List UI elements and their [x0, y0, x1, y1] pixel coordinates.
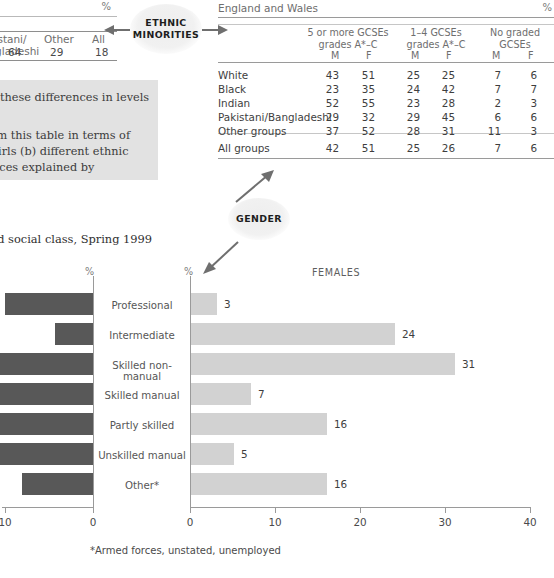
right-table-caption: England and Wales: [218, 2, 318, 14]
column-group-no-graded: No graded GCSEs: [476, 27, 554, 50]
column-group-1-to-4: 1–4 GCSEs grades A*–C: [398, 27, 474, 50]
table-rule-1: [218, 17, 554, 18]
bar-value-6: 16: [334, 478, 347, 490]
ethnic-minorities-node: ETHNIC MINORITIES: [130, 4, 202, 54]
bar-left-6: [22, 473, 93, 495]
arrow-left-icon: [104, 22, 132, 38]
bar-left-1: [55, 323, 93, 345]
left-table-header-other: Other: [44, 33, 74, 45]
left-table-header-pakistani-line2: angladeshi: [0, 45, 44, 57]
subheader-m-0: M: [331, 50, 339, 61]
question-line-2: from this table in terms of: [0, 129, 158, 142]
left-table-percent-symbol: %: [101, 1, 111, 12]
subheader-m-2: M: [492, 50, 500, 61]
table-cell-3-3: 45: [439, 111, 455, 123]
category-label-5: Unskilled manual: [96, 450, 188, 461]
column-group-5-or-more-line1: 5 or more GCSEs: [302, 27, 394, 39]
left-table-value-1: 29: [50, 46, 63, 58]
left-partial-table: % akistani/ angladeshi Other All 64 29 1…: [0, 0, 117, 62]
question-box: for these differences in levels ? from t…: [0, 80, 158, 180]
bar-right-2: [191, 353, 455, 375]
table-cell-3-0: 29: [323, 111, 339, 123]
bar-right-6: [191, 473, 327, 495]
table-rule-3: [218, 62, 554, 63]
bar-right-5: [191, 443, 234, 465]
bar-left-5: [0, 443, 93, 465]
table-row-label-4: Other groups: [218, 125, 286, 137]
category-label-6: Other*: [96, 480, 188, 491]
left-axis-tick-10: [5, 507, 6, 513]
table-cell-1-5: 7: [521, 83, 537, 95]
category-label-1: Intermediate: [96, 330, 188, 341]
bar-value-2: 31: [462, 358, 475, 370]
females-series-header: FEMALES: [312, 267, 360, 278]
bar-left-0: [5, 293, 93, 315]
question-line-3: d girls (b) different ethnic: [0, 145, 158, 158]
bar-right-4: [191, 413, 327, 435]
column-group-1-to-4-line2: grades A*–C: [398, 39, 474, 51]
subheader-m-1: M: [411, 50, 419, 61]
table-row-label-total: All groups: [218, 142, 270, 154]
table-cell-2-2: 23: [404, 97, 420, 109]
left-table-value-0: 64: [8, 46, 21, 58]
right-data-table: England and Wales % 5 or more GCSEs grad…: [218, 0, 554, 165]
table-cell-3-5: 6: [521, 111, 537, 123]
table-cell-total-1: 51: [359, 142, 375, 154]
table-cell-2-1: 55: [359, 97, 375, 109]
right-axis-tick-30: [445, 507, 446, 513]
right-axis-ticklabel-10: 10: [268, 516, 281, 528]
bar-left-2: [0, 353, 93, 375]
left-chart-x-axis: [2, 507, 94, 508]
table-cell-4-0: 37: [323, 125, 339, 137]
table-cell-0-0: 43: [323, 69, 339, 81]
table-rule-bottom: [0, 60, 117, 61]
gender-label: GENDER: [236, 213, 282, 225]
table-cell-total-4: 7: [485, 142, 501, 154]
table-row-label-2: Indian: [218, 97, 250, 109]
table-cell-total-5: 6: [521, 142, 537, 154]
bar-value-5: 5: [241, 448, 248, 460]
right-axis-ticklabel-40: 40: [523, 516, 536, 528]
bar-value-3: 7: [258, 388, 265, 400]
question-line-4: rences explained by: [0, 161, 158, 174]
column-group-no-graded-line1: No graded GCSEs: [476, 27, 554, 50]
right-axis-ticklabel-20: 20: [353, 516, 366, 528]
right-axis-percent-label: %: [184, 266, 193, 277]
question-line-0: for these differences in levels: [0, 91, 158, 104]
table-cell-3-2: 29: [404, 111, 420, 123]
bar-value-0: 3: [224, 298, 231, 310]
table-rule-top: [0, 16, 117, 17]
right-table-percent-symbol: %: [542, 2, 552, 13]
right-axis-tick-0: [190, 507, 191, 513]
column-group-5-or-more: 5 or more GCSEs grades A*–C: [302, 27, 394, 50]
table-row-label-0: White: [218, 69, 248, 81]
ethnic-minorities-label-line2: MINORITIES: [133, 29, 199, 41]
right-axis-tick-10: [275, 507, 276, 513]
chart-footnote: *Armed forces, unstated, unemployed: [90, 545, 281, 556]
table-cell-0-1: 51: [359, 69, 375, 81]
table-cell-2-0: 52: [323, 97, 339, 109]
table-cell-3-1: 32: [359, 111, 375, 123]
right-axis-tick-40: [530, 507, 531, 513]
left-chart-y-axis: [93, 276, 94, 507]
table-cell-4-2: 28: [404, 125, 420, 137]
table-cell-1-3: 42: [439, 83, 455, 95]
right-axis-ticklabel-30: 30: [438, 516, 451, 528]
table-cell-1-4: 7: [485, 83, 501, 95]
table-rule-5: [218, 158, 554, 159]
table-cell-1-1: 35: [359, 83, 375, 95]
bar-right-0: [191, 293, 217, 315]
right-axis-ticklabel-0: 0: [187, 516, 194, 528]
table-cell-total-2: 25: [404, 142, 420, 154]
table-row-label-1: Black: [218, 83, 246, 95]
table-cell-2-5: 3: [521, 97, 537, 109]
table-rule-header: [0, 31, 117, 32]
bar-value-1: 24: [402, 328, 415, 340]
ethnic-minorities-label-line1: ETHNIC: [133, 17, 199, 29]
chart-title: r and social class, Spring 1999: [0, 232, 234, 246]
table-cell-4-5: 3: [521, 125, 537, 137]
category-label-4: Partly skilled: [96, 420, 188, 431]
table-cell-0-2: 25: [404, 69, 420, 81]
table-rule-2: [218, 24, 554, 25]
subheader-f-1: F: [446, 50, 452, 61]
